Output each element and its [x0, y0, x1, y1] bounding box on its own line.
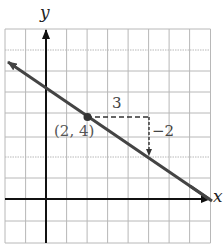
run-label: 3	[112, 96, 122, 111]
coordinate-graph	[0, 0, 223, 244]
point-2-4	[84, 113, 92, 121]
y-axis-label: y	[40, 4, 50, 21]
grid	[5, 29, 211, 243]
point-label: (2, 4)	[54, 124, 94, 139]
rise-label: −2	[152, 124, 174, 139]
x-axis-label: x	[213, 188, 223, 205]
